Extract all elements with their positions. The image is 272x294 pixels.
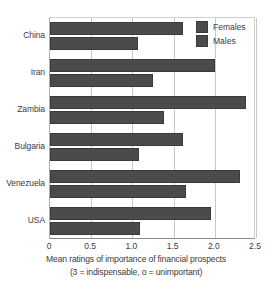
x-axis-title: Mean ratings of importance of financial … (0, 254, 272, 264)
legend-item-females: Females (196, 20, 254, 34)
bar-group (50, 129, 254, 166)
legend-swatch-icon (196, 21, 208, 33)
y-axis-label-bulgaria: Bulgaria (0, 141, 45, 151)
bar-zambia-males (50, 111, 164, 124)
legend-label-females: Females (213, 22, 246, 32)
bar-group (50, 55, 254, 92)
bar-iran-females (50, 59, 215, 72)
bar-bulgaria-females (50, 133, 183, 146)
x-axis-tick-labels: 00.51.01.52.02.5 (49, 241, 255, 253)
y-axis-label-venezuela: Venezuela (0, 178, 45, 188)
bar-group (50, 166, 254, 203)
bar-bulgaria-males (50, 148, 139, 161)
y-axis-label-usa: USA (0, 215, 45, 225)
bar-group (50, 92, 254, 129)
plot-area (49, 17, 255, 239)
y-axis-label-iran: Iran (0, 67, 45, 77)
bar-venezuela-males (50, 185, 186, 198)
x-axis-tick-label: 2.5 (249, 241, 261, 251)
y-axis-label-zambia: Zambia (0, 104, 45, 114)
bar-zambia-females (50, 96, 246, 109)
x-axis-tick-label: 1.0 (125, 241, 137, 251)
gridline (256, 18, 257, 238)
bar-group (50, 203, 254, 240)
legend: Females Males (196, 20, 254, 48)
x-axis-subtitle: (3 = indispensable, o = unimportant) (0, 267, 272, 277)
x-axis-tick-label: 0.5 (84, 241, 96, 251)
bar-rows (50, 18, 254, 238)
bar-usa-females (50, 207, 211, 220)
x-axis-tick-label: 1.5 (167, 241, 179, 251)
x-axis-tick-label: 0 (47, 241, 52, 251)
bar-china-females (50, 22, 183, 35)
y-axis-label-china: China (0, 30, 45, 40)
bar-chart: ChinaIranZambiaBulgariaVenezuelaUSA 00.5… (0, 0, 272, 294)
y-axis-labels: ChinaIranZambiaBulgariaVenezuelaUSA (0, 17, 45, 239)
bar-iran-males (50, 74, 153, 87)
bar-venezuela-females (50, 170, 240, 183)
bar-usa-males (50, 222, 140, 235)
x-axis-tick-label: 2.0 (208, 241, 220, 251)
legend-label-males: Males (213, 36, 236, 46)
legend-item-males: Males (196, 34, 254, 48)
legend-swatch-icon (196, 35, 208, 47)
bar-china-males (50, 37, 138, 50)
